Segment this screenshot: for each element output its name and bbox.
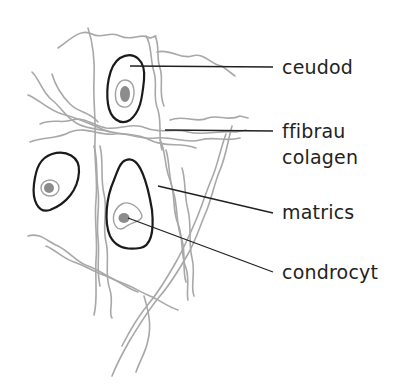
label-fibres: ffibrau — [282, 122, 346, 141]
cell-chondrocyte — [107, 159, 153, 248]
label-cell: ceudod — [282, 58, 353, 77]
cell-left — [34, 153, 79, 211]
label-chondrocyte: condrocyt — [282, 263, 378, 282]
label-matrix: matrics — [282, 203, 354, 222]
leader-cell — [130, 66, 273, 67]
cell-top — [107, 55, 144, 122]
label-collagen: colagen — [282, 148, 358, 167]
